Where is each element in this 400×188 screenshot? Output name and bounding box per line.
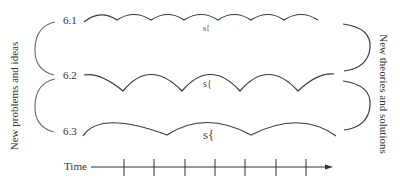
diagram-canvas bbox=[0, 0, 400, 188]
row-label-6-1: 6.1 bbox=[63, 15, 77, 26]
time-axis-arrowhead bbox=[325, 165, 333, 170]
row-label-6-2: 6.2 bbox=[63, 70, 77, 81]
left-axis-label: New problems and ideas bbox=[8, 42, 20, 150]
row-label-6-3: 6.3 bbox=[63, 126, 77, 137]
row-6-2-symbol: s{ bbox=[203, 79, 212, 89]
row-6-3-symbol: s{ bbox=[203, 128, 214, 141]
right-bracket-upper bbox=[343, 24, 370, 71]
row-6-1-symbol: s{ bbox=[203, 25, 210, 33]
left-bracket-upper bbox=[35, 22, 55, 75]
right-bracket-lower bbox=[343, 81, 370, 130]
right-axis-label: New theories and solutions bbox=[378, 34, 390, 153]
left-bracket-lower bbox=[35, 79, 55, 132]
row-6-1-scallops bbox=[84, 15, 318, 23]
time-axis-label: Time bbox=[64, 161, 87, 172]
